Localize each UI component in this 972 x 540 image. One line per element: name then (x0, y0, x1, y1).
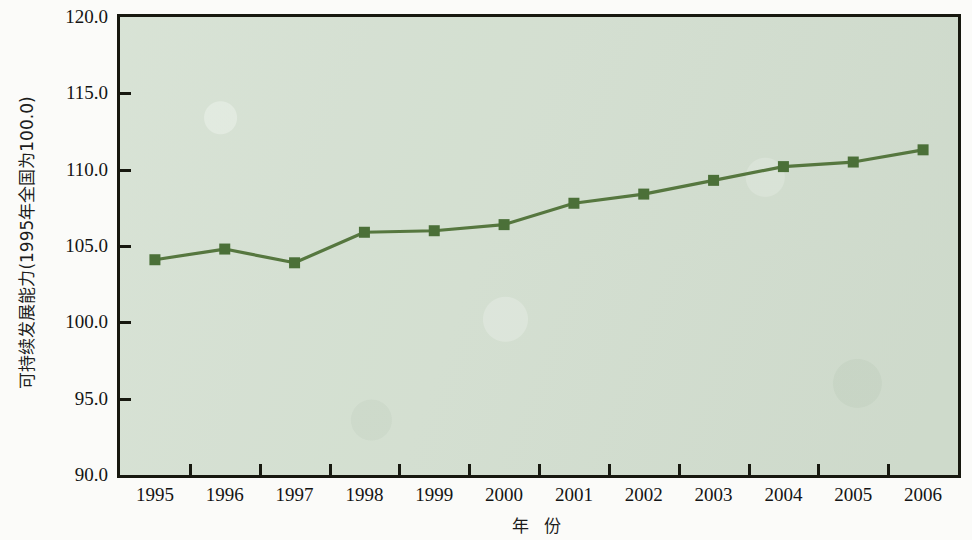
x-axis-tick-mark (887, 464, 890, 475)
y-axis-tick-mark (120, 92, 131, 95)
x-axis-tick-mark (468, 464, 471, 475)
x-axis-tick-mark (259, 464, 262, 475)
x-axis-title: 年 份 (117, 512, 961, 537)
data-point-marker (429, 225, 440, 236)
data-point-marker (918, 144, 929, 155)
plot-area (117, 14, 961, 478)
y-axis-tick-label: 115.0 (34, 83, 108, 102)
data-point-marker (289, 257, 300, 268)
x-axis-tick-mark (817, 464, 820, 475)
x-axis-tick-mark (608, 464, 611, 475)
y-axis-tick-mark (120, 245, 131, 248)
y-axis-tick-label: 110.0 (34, 160, 108, 179)
data-point-marker (568, 198, 579, 209)
data-point-marker (359, 227, 370, 238)
x-axis-tick-mark (398, 464, 401, 475)
data-series-layer (120, 17, 958, 475)
y-axis-tick-mark (120, 398, 131, 401)
data-point-marker (848, 157, 859, 168)
plot-inner (120, 17, 958, 475)
x-axis-tick-mark (748, 464, 751, 475)
y-axis-tick-mark (120, 321, 131, 324)
series-line (155, 150, 923, 263)
data-point-marker (219, 244, 230, 255)
y-axis-tick-label: 120.0 (34, 7, 108, 26)
data-point-marker (149, 254, 160, 265)
y-axis-tick-label: 105.0 (34, 236, 108, 255)
line-chart: 可持续发展能力(1995年全国为100.0) 90.095.0100.0105.… (0, 0, 972, 540)
data-point-marker (638, 189, 649, 200)
y-axis-tick-label: 100.0 (34, 312, 108, 331)
x-axis-tick-mark (678, 464, 681, 475)
data-point-marker (708, 175, 719, 186)
x-axis-tick-mark (538, 464, 541, 475)
data-point-marker (499, 219, 510, 230)
x-axis-tick-label: 2006 (878, 484, 968, 506)
x-axis-tick-mark (189, 464, 192, 475)
x-axis-tick-mark (329, 464, 332, 475)
y-axis-tick-mark (120, 169, 131, 172)
data-point-marker (778, 161, 789, 172)
y-axis-tick-label: 95.0 (34, 389, 108, 408)
y-axis-tick-label: 90.0 (34, 465, 108, 484)
y-axis-tick-labels: 90.095.0100.0105.0110.0115.0120.0 (34, 0, 108, 540)
